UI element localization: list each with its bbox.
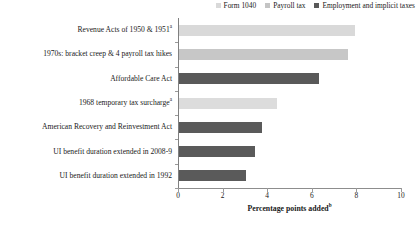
category-label: American Recovery and Reinvestment Act [42, 123, 172, 131]
y-axis-tick [175, 164, 178, 165]
category-label-text: American Recovery and Reinvestment Act [42, 122, 172, 131]
y-axis-tick [175, 115, 178, 116]
plot-area: Revenue Acts of 1950 & 1951a1970s: brack… [0, 18, 419, 188]
x-axis-tick-label: 4 [265, 192, 269, 199]
x-axis-tick-label: 6 [310, 192, 314, 199]
bar-chart-figure: Form 1040 Payroll tax Employment and imp… [0, 0, 419, 230]
category-label-text: Affordable Care Act [110, 74, 172, 83]
category-label: 1970s: bracket creep & 4 payroll tax hik… [43, 50, 172, 58]
bars-container [178, 18, 419, 188]
bar [179, 25, 355, 36]
x-axis-tick-label: 2 [221, 192, 225, 199]
legend-swatch-form-1040 [216, 3, 221, 8]
category-label-superscript: a [170, 96, 172, 102]
x-axis-tick-label: 10 [397, 192, 404, 199]
category-label: 1968 temporary tax surchargea [79, 99, 172, 107]
bar [179, 98, 277, 109]
chart-legend: Form 1040 Payroll tax Employment and imp… [0, 2, 419, 9]
bar [179, 122, 262, 133]
y-axis-tick [175, 91, 178, 92]
bar [179, 73, 319, 84]
category-label-text: 1970s: bracket creep & 4 payroll tax hik… [43, 49, 172, 58]
x-axis-line [178, 188, 401, 189]
legend-label-employment-implicit-taxes: Employment and implicit taxes [322, 2, 415, 9]
category-label: Revenue Acts of 1950 & 1951a [78, 26, 172, 34]
category-label-superscript: a [170, 24, 172, 30]
category-label-text: UI benefit duration extended in 1992 [60, 171, 172, 180]
category-label: Affordable Care Act [110, 75, 172, 83]
y-axis-tick [175, 139, 178, 140]
bar [179, 146, 255, 157]
x-axis-title: Percentage points addedb [178, 205, 401, 213]
x-axis-tick-label: 0 [176, 192, 180, 199]
x-axis-title-superscript: b [329, 202, 332, 208]
legend-label-form-1040: Form 1040 [224, 2, 257, 9]
legend-swatch-employment-implicit-taxes [314, 3, 319, 8]
bar [179, 49, 348, 60]
legend-label-payroll-tax: Payroll tax [273, 2, 305, 9]
x-axis-tick-label: 8 [355, 192, 359, 199]
legend-item-form-1040: Form 1040 [216, 2, 257, 9]
category-label: UI benefit duration extended in 2008-9 [53, 148, 172, 156]
category-label: UI benefit duration extended in 1992 [60, 172, 172, 180]
category-label-text: Revenue Acts of 1950 & 1951 [78, 25, 170, 34]
legend-item-payroll-tax: Payroll tax [265, 2, 305, 9]
x-axis-title-text: Percentage points added [247, 204, 328, 213]
category-label-text: UI benefit duration extended in 2008-9 [53, 147, 172, 156]
bar [179, 170, 246, 181]
y-axis-tick [175, 42, 178, 43]
y-axis-tick [175, 67, 178, 68]
category-label-text: 1968 temporary tax surcharge [79, 98, 170, 107]
legend-swatch-payroll-tax [265, 3, 270, 8]
legend-item-employment-implicit-taxes: Employment and implicit taxes [314, 2, 415, 9]
category-axis-labels: Revenue Acts of 1950 & 1951a1970s: brack… [0, 18, 176, 188]
